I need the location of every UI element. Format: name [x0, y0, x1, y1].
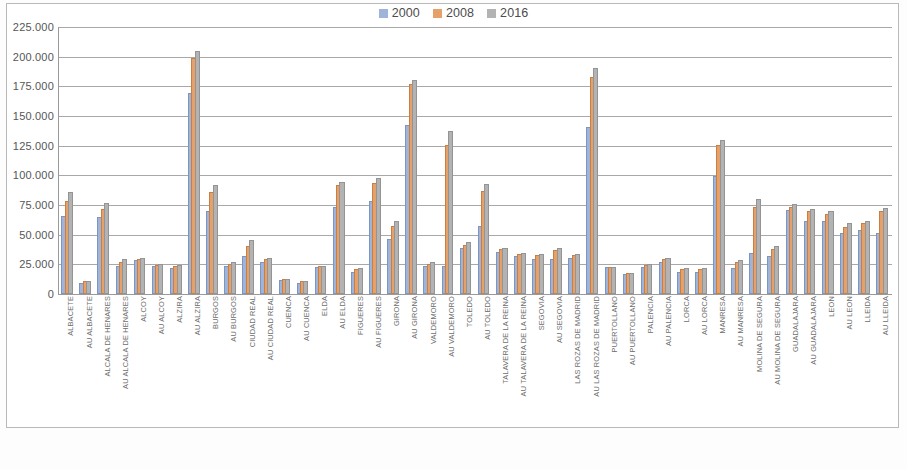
bar-2016	[774, 246, 779, 294]
bar-group	[550, 27, 563, 294]
bar-2016	[321, 266, 326, 294]
bar-2016	[68, 192, 73, 294]
bars-layer	[58, 27, 891, 294]
bar-2016	[267, 258, 272, 294]
bar-2016	[792, 204, 797, 294]
y-tick-label: 125.000	[13, 140, 54, 152]
bar-2016	[448, 131, 453, 294]
bar-group	[315, 27, 328, 294]
bar-2016	[466, 242, 471, 294]
x-tick-label: AU ALZIRA	[194, 296, 201, 335]
x-tick-label: AU PALENCIA	[665, 296, 672, 346]
bar-group	[767, 27, 780, 294]
bar-2016	[828, 211, 833, 294]
bar-group	[170, 27, 183, 294]
x-tick-label: SEGOVIA	[538, 296, 545, 330]
bar-2016	[285, 279, 290, 294]
bar-group	[206, 27, 219, 294]
x-tick-label: ALCALA DE HENARES	[104, 296, 111, 377]
bar-2016	[647, 264, 652, 294]
bar-group	[568, 27, 581, 294]
bar-2016	[593, 68, 598, 294]
x-tick-label: AU LORCA	[701, 296, 708, 335]
bar-group	[79, 27, 92, 294]
bar-group	[279, 27, 292, 294]
bar-2016	[502, 248, 507, 294]
bar-group	[804, 27, 817, 294]
y-tick-label: 50.000	[19, 229, 54, 241]
x-tick-label: TALAVERA DE LA REINA	[502, 296, 509, 384]
x-tick-label: AU CUENCA	[303, 296, 310, 341]
x-tick-label: BURGOS	[212, 296, 219, 329]
x-tick-label: AU LEON	[846, 296, 853, 330]
bar-chart-container: 200020082016 025.00050.00075.000100.0001…	[0, 0, 907, 469]
x-tick-label: AU ALBACETE	[86, 296, 93, 348]
x-tick-label: ALCOY	[140, 296, 147, 322]
bar-group	[822, 27, 835, 294]
y-tick-label: 175.000	[13, 80, 54, 92]
bar-group	[97, 27, 110, 294]
bar-group	[333, 27, 346, 294]
bar-group	[677, 27, 690, 294]
bar-2016	[702, 268, 707, 294]
x-tick-label: LAS ROZAS DE MADRID	[574, 296, 581, 384]
bar-2016	[412, 80, 417, 294]
bar-2016	[394, 221, 399, 294]
x-tick-label: MOLINA DE SEGURA	[756, 296, 763, 372]
x-tick-label: AU GIRONA	[411, 296, 418, 339]
bar-group	[749, 27, 762, 294]
x-tick-label: AU MOLINA DE SEGURA	[774, 296, 781, 385]
x-tick-label: PALENCIA	[647, 296, 654, 333]
bar-2016	[213, 185, 218, 294]
bar-2016	[684, 268, 689, 294]
plot-wrap	[58, 27, 891, 294]
bar-group	[623, 27, 636, 294]
x-tick-label: AU ALCALA DE HENARES	[122, 296, 129, 389]
bar-2016	[140, 258, 145, 294]
bar-group	[116, 27, 129, 294]
x-tick-label: AU ELDA	[339, 296, 346, 329]
bar-2016	[611, 267, 616, 294]
x-tick-label: PUERTOLLANO	[611, 296, 618, 352]
bar-group	[840, 27, 853, 294]
bar-2016	[376, 178, 381, 294]
bar-group	[405, 27, 418, 294]
bar-2016	[629, 273, 634, 294]
bar-2016	[231, 262, 236, 294]
x-tick-label: AU GUADALAJARA	[810, 296, 817, 365]
bar-2016	[86, 281, 91, 294]
x-axis-labels: ALBACETEAU ALBACETEALCALA DE HENARESAU A…	[58, 296, 891, 446]
bar-group	[188, 27, 201, 294]
bar-2016	[177, 265, 182, 294]
bar-2016	[847, 223, 852, 294]
bar-group	[460, 27, 473, 294]
x-tick-label: CUENCA	[285, 296, 292, 328]
x-tick-label: AU BURGOS	[230, 296, 237, 342]
x-tick-label: AU SEGOVIA	[556, 296, 563, 343]
y-tick-label: 225.000	[13, 21, 54, 33]
bar-2016	[539, 254, 544, 294]
bar-group	[659, 27, 672, 294]
x-tick-label: GIRONA	[393, 296, 400, 326]
bar-2016	[865, 221, 870, 294]
bar-group	[586, 27, 599, 294]
bar-group	[713, 27, 726, 294]
x-tick-label: LEON	[828, 296, 835, 317]
bar-group	[876, 27, 889, 294]
y-tick-label: 150.000	[13, 110, 54, 122]
x-tick-label: AU LLEIDA	[882, 296, 889, 335]
x-tick-label: LORCA	[683, 296, 690, 322]
bar-2016	[249, 240, 254, 294]
bar-group	[478, 27, 491, 294]
bar-group	[387, 27, 400, 294]
bar-group	[496, 27, 509, 294]
bar-group	[242, 27, 255, 294]
bar-group	[532, 27, 545, 294]
x-tick-label: AU VALDEMORO	[448, 296, 455, 357]
bar-2016	[810, 209, 815, 294]
x-tick-label: AU LAS ROZAS DE MADRID	[593, 296, 600, 397]
bar-2016	[158, 264, 163, 294]
y-tick-label: 200.000	[13, 51, 54, 63]
bar-2016	[122, 259, 127, 294]
bar-2016	[720, 140, 725, 294]
